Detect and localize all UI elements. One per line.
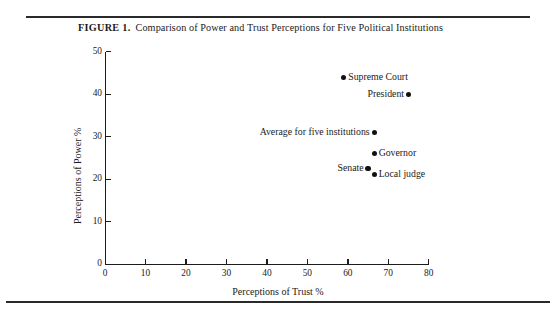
data-point-label: Average for five institutions bbox=[260, 126, 370, 137]
x-tick-label: 80 bbox=[417, 268, 441, 278]
y-tick-mark bbox=[106, 221, 111, 222]
data-point[interactable] bbox=[372, 172, 377, 177]
data-point[interactable] bbox=[341, 75, 346, 80]
data-point-label: Supreme Court bbox=[348, 71, 408, 82]
data-point-label: Senate bbox=[337, 162, 363, 173]
data-point-label: Local judge bbox=[379, 168, 426, 179]
y-axis-line bbox=[105, 52, 106, 265]
y-tick-mark bbox=[106, 136, 111, 137]
y-tick-label: 0 bbox=[80, 258, 102, 268]
data-point[interactable] bbox=[406, 92, 411, 97]
x-tick-label: 20 bbox=[174, 268, 198, 278]
data-point[interactable] bbox=[372, 130, 377, 135]
figure-frame: FIGURE 1.Comparison of Power and Trust P… bbox=[0, 0, 556, 322]
x-tick-mark bbox=[307, 259, 308, 264]
y-tick-label: 40 bbox=[80, 88, 102, 98]
y-tick-label: 50 bbox=[80, 46, 102, 56]
scatter-plot: 01020304050 01020304050607080 Supreme Co… bbox=[0, 0, 556, 322]
x-axis-line bbox=[105, 264, 429, 265]
y-tick-mark bbox=[106, 51, 111, 52]
x-tick-mark bbox=[185, 259, 186, 264]
y-tick-label: 10 bbox=[80, 216, 102, 226]
y-tick-label: 20 bbox=[80, 173, 102, 183]
bottom-rule bbox=[6, 301, 550, 303]
y-axis-title: Perceptions of Power % bbox=[72, 128, 83, 224]
x-tick-label: 0 bbox=[93, 268, 117, 278]
x-tick-label: 10 bbox=[133, 268, 157, 278]
x-tick-label: 50 bbox=[295, 268, 319, 278]
x-tick-mark bbox=[347, 259, 348, 264]
y-tick-label: 30 bbox=[80, 131, 102, 141]
data-point-label: President bbox=[368, 88, 404, 99]
x-tick-mark bbox=[266, 259, 267, 264]
x-axis-title: Perceptions of Trust % bbox=[0, 286, 556, 297]
x-tick-mark bbox=[226, 259, 227, 264]
x-tick-label: 60 bbox=[336, 268, 360, 278]
y-tick-mark bbox=[106, 94, 111, 95]
data-point-label: Governor bbox=[379, 147, 417, 158]
x-tick-label: 70 bbox=[376, 268, 400, 278]
data-point[interactable] bbox=[372, 151, 377, 156]
y-tick-mark bbox=[106, 179, 111, 180]
data-point[interactable] bbox=[365, 166, 370, 171]
x-tick-mark bbox=[428, 259, 429, 264]
x-tick-label: 40 bbox=[255, 268, 279, 278]
x-tick-mark bbox=[145, 259, 146, 264]
x-tick-mark bbox=[388, 259, 389, 264]
x-tick-label: 30 bbox=[214, 268, 238, 278]
